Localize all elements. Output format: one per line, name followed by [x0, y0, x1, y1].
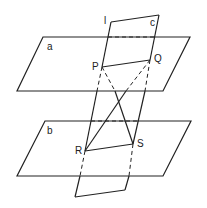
label-s: S [137, 138, 144, 149]
segment-pq [102, 60, 150, 67]
plane-c-bottom-edge [75, 190, 125, 197]
label-a: a [47, 41, 53, 52]
label-l: l [104, 15, 106, 26]
plane-c-right-edge-lower-hidden [129, 144, 133, 176]
segment-rs [85, 144, 133, 151]
label-r: R [75, 145, 82, 156]
segment-qr-hidden [126, 60, 150, 91]
segment-ps-hidden [102, 67, 115, 91]
label-p: P [92, 61, 99, 72]
plane-c-right-edge-middle [133, 91, 145, 144]
planes-diagram: l c a P Q b R S [0, 0, 207, 208]
plane-c-left-edge-upper [102, 22, 111, 67]
segment-ps [115, 91, 133, 144]
plane-a [17, 37, 190, 91]
plane-c-left-edge-lower [75, 176, 80, 197]
label-c: c [150, 17, 155, 28]
plane-c-right-edge-lower [125, 176, 129, 190]
label-b: b [47, 125, 53, 136]
label-q: Q [154, 53, 162, 64]
plane-c-right-edge-hidden [145, 60, 150, 91]
